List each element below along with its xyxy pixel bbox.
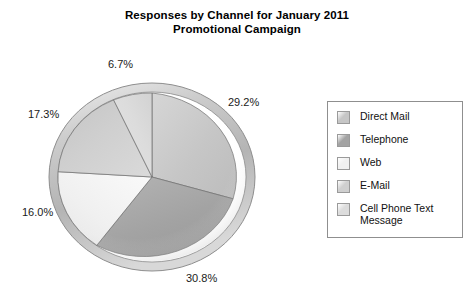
pie-shading-overlay (58, 93, 246, 261)
chart-title: Responses by Channel for January 2011 Pr… (0, 8, 474, 36)
chart-legend: Direct Mail Telephone Web E-Mail Cell Ph… (327, 101, 463, 238)
legend-item-web[interactable]: Web (328, 156, 462, 179)
slice-label-cell-phone: 6.7% (108, 58, 133, 70)
legend-label-cell-phone: Cell Phone Text Message (360, 202, 433, 226)
legend-swatch-telephone (337, 134, 350, 147)
legend-swatch-email (337, 180, 350, 193)
legend-label-email: E-Mail (360, 179, 390, 191)
slice-label-email: 17.3% (28, 108, 59, 120)
legend-swatch-web (337, 157, 350, 170)
legend-swatch-direct-mail (337, 111, 350, 124)
legend-label-direct-mail: Direct Mail (360, 110, 410, 122)
legend-item-email[interactable]: E-Mail (328, 179, 462, 202)
slice-label-telephone: 30.8% (186, 272, 217, 284)
legend-swatch-cell-phone (337, 203, 350, 216)
chart-title-line-2: Promotional Campaign (0, 22, 474, 36)
slice-label-web: 16.0% (22, 206, 53, 218)
legend-label-web: Web (360, 156, 381, 168)
legend-item-telephone[interactable]: Telephone (328, 133, 462, 156)
pie-chart-figure: Responses by Channel for January 2011 Pr… (0, 0, 474, 300)
chart-title-line-1: Responses by Channel for January 2011 (125, 9, 349, 21)
legend-item-cell-phone[interactable]: Cell Phone Text Message (328, 202, 462, 232)
legend-label-telephone: Telephone (360, 133, 408, 145)
legend-item-direct-mail[interactable]: Direct Mail (328, 110, 462, 133)
slice-label-direct-mail: 29.2% (228, 96, 259, 108)
